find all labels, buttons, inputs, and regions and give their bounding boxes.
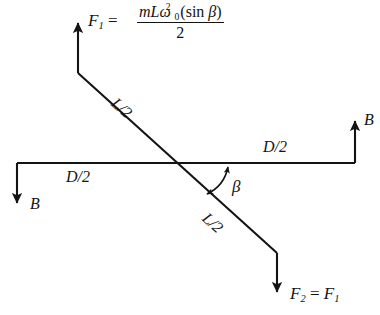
b-left-label: B: [30, 196, 40, 212]
fraction-bar: [137, 22, 224, 23]
formula-close-paren: ): [216, 3, 221, 20]
omega-superscript: 2: [166, 1, 171, 12]
f2-rhs-subscript: 1: [334, 293, 339, 304]
b-right-label: B: [364, 112, 374, 128]
formula-denominator: 2: [137, 24, 224, 41]
f2-rhs-symbol: F: [324, 284, 334, 303]
physics-force-diagram: F1 = mLω20(sin β) 2 B B D/2 D/2 L/2 L/2 …: [0, 0, 380, 315]
formula-mass-length: mL: [139, 3, 159, 20]
formula-sin-open: (sin: [180, 3, 208, 20]
f1-formula: mLω20(sin β) 2: [137, 4, 224, 41]
f1-label: F1 =: [88, 12, 118, 31]
beta-angle-arc: [207, 167, 228, 194]
f2-equals-sign: =: [306, 284, 324, 303]
f1-equals-sign: =: [104, 11, 118, 30]
f1-symbol: F: [88, 11, 98, 30]
horizontal-member-group: [17, 121, 355, 203]
f2-symbol: F: [290, 284, 300, 303]
omega-subscript: 0: [175, 11, 180, 22]
f2-label: F2 = F1: [290, 285, 339, 304]
beta-angle-label: β: [232, 178, 240, 195]
omega-group: ω20: [159, 4, 180, 20]
diagonal-member-group: [78, 23, 277, 292]
d-right-label: D/2: [263, 139, 287, 155]
formula-numerator: mLω20(sin β): [137, 4, 224, 21]
diagram-line-art: [0, 0, 380, 315]
d-left-label: D/2: [66, 169, 90, 185]
